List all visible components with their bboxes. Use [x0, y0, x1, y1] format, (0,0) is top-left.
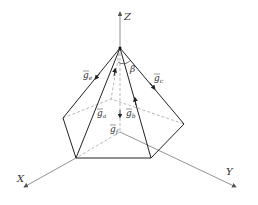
- svg-text:gb: gb: [126, 108, 136, 119]
- x-axis-label: X: [16, 173, 25, 184]
- svg-text:gc: gc: [154, 73, 164, 84]
- axes: [24, 12, 236, 187]
- x-axis: [24, 158, 76, 187]
- svg-text:ga: ga: [97, 108, 107, 119]
- z-axis-label: Z: [123, 11, 132, 22]
- vector-label-gb: gb: [126, 108, 136, 119]
- vector-label-ga: ga: [97, 108, 107, 119]
- beta-label: β: [129, 64, 135, 74]
- svg-text:ge: ge: [83, 70, 93, 81]
- y-axis-label: Y: [226, 166, 234, 177]
- apex-point: [119, 47, 122, 50]
- visible-edges: [63, 48, 184, 158]
- vector-label-gf: gf: [110, 124, 120, 136]
- vector-label-ge: ge: [83, 70, 93, 81]
- vector-label-gc: gc: [154, 73, 164, 84]
- svg-text:gf: gf: [110, 124, 120, 136]
- pyramid-diagram: Z X Y β ge gc ga gb gf: [0, 0, 258, 205]
- y-axis: [120, 132, 236, 187]
- vector-arrows: [96, 70, 154, 116]
